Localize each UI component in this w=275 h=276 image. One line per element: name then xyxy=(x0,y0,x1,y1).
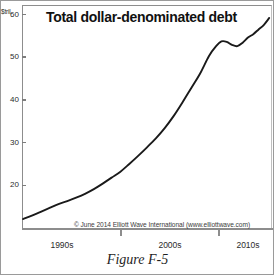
figure-caption: Figure F-5 xyxy=(0,252,275,268)
series-path-total-debt xyxy=(23,18,269,219)
chart-plot-area: $tril. 6050403020 1990s2000s2010s Total … xyxy=(0,0,275,240)
x-tick-label: 1990s xyxy=(50,240,73,250)
x-tick-label: 2000s xyxy=(158,240,181,250)
x-tick-label: 2010s xyxy=(236,240,259,250)
debt-line-series xyxy=(0,0,275,240)
figure-f5: $tril. 6050403020 1990s2000s2010s Total … xyxy=(0,0,275,276)
chart-title: Total dollar-denominated debt xyxy=(46,9,237,25)
copyright-notice: © June 2014 Elliott Wave International (… xyxy=(74,221,250,228)
